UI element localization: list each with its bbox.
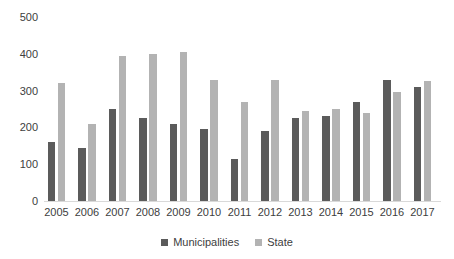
x-axis-label-2013: 2013 (284, 206, 318, 219)
x-axis-label-2009: 2009 (162, 206, 196, 219)
bar-municipalities-2017 (414, 87, 422, 201)
x-axis-line (44, 201, 441, 202)
bar-state-2015 (363, 113, 371, 201)
y-axis-tick-label: 0 (0, 195, 38, 207)
bar-chart: Municipalities State 0100200300400500200… (0, 0, 454, 259)
legend-item-municipalities: Municipalities (161, 236, 239, 248)
bar-state-2011 (241, 102, 249, 201)
x-axis-label-2012: 2012 (253, 206, 287, 219)
bar-state-2016 (393, 92, 401, 201)
x-axis-label-2014: 2014 (314, 206, 348, 219)
bar-state-2013 (302, 111, 310, 201)
bar-state-2010 (210, 80, 218, 201)
bar-state-2007 (119, 56, 127, 201)
y-axis-tick-label: 300 (0, 85, 38, 97)
bar-municipalities-2009 (170, 124, 178, 201)
bar-municipalities-2010 (200, 129, 208, 201)
x-axis-label-2007: 2007 (101, 206, 135, 219)
legend-swatch-municipalities-icon (161, 239, 168, 246)
bar-municipalities-2012 (261, 131, 269, 201)
bar-state-2014 (332, 109, 340, 201)
y-axis-tick-label: 500 (0, 11, 38, 23)
bar-state-2012 (271, 80, 279, 201)
bar-municipalities-2016 (383, 80, 391, 201)
y-axis-tick-label: 200 (0, 121, 38, 133)
x-axis-label-2006: 2006 (70, 206, 104, 219)
x-axis-label-2016: 2016 (375, 206, 409, 219)
bar-state-2008 (149, 54, 157, 201)
x-axis-label-2010: 2010 (192, 206, 226, 219)
y-axis-tick-label: 400 (0, 48, 38, 60)
bar-municipalities-2007 (109, 109, 117, 201)
x-axis-label-2011: 2011 (223, 206, 257, 219)
x-axis-label-2017: 2017 (406, 206, 440, 219)
x-axis-label-2008: 2008 (131, 206, 165, 219)
x-axis-label-2005: 2005 (40, 206, 74, 219)
bar-municipalities-2011 (231, 159, 239, 201)
legend: Municipalities State (0, 236, 454, 248)
legend-label-state: State (267, 236, 293, 248)
bar-municipalities-2006 (78, 148, 86, 201)
bar-municipalities-2015 (353, 102, 361, 201)
bar-state-2005 (58, 83, 66, 201)
bar-municipalities-2013 (292, 118, 300, 201)
bar-municipalities-2005 (48, 142, 56, 201)
legend-label-municipalities: Municipalities (173, 236, 239, 248)
bar-state-2009 (180, 52, 188, 201)
y-axis-tick-label: 100 (0, 158, 38, 170)
bar-state-2006 (88, 124, 96, 201)
bar-state-2017 (424, 81, 432, 201)
bar-municipalities-2014 (322, 116, 330, 201)
x-axis-label-2015: 2015 (345, 206, 379, 219)
legend-swatch-state-icon (255, 239, 262, 246)
legend-item-state: State (255, 236, 293, 248)
bar-municipalities-2008 (139, 118, 147, 201)
